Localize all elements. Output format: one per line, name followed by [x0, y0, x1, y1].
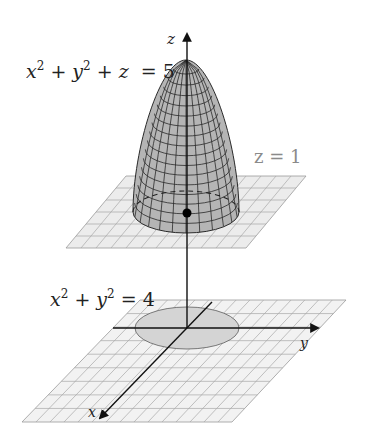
x-axis-label: x: [88, 404, 96, 420]
plane-equation-label: z = 1: [254, 146, 301, 167]
circle-equation-label: x2 + y2 = 4: [50, 288, 155, 310]
z-axis-label: z: [167, 30, 175, 48]
surface-equation-label: x2 + y2 + z = 5: [26, 60, 175, 82]
paraboloid-surface: [133, 60, 239, 233]
y-axis-label: y: [300, 335, 308, 351]
point-on-z-axis: [183, 209, 192, 218]
